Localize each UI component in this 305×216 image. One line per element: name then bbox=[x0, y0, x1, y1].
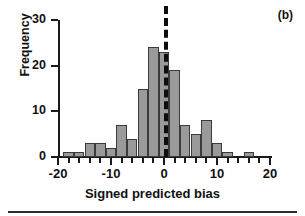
histogram-bar bbox=[191, 134, 202, 157]
figure-bottom-rule bbox=[8, 211, 297, 213]
y-axis-tick bbox=[51, 110, 58, 112]
x-axis-tick-minor bbox=[205, 158, 207, 163]
y-axis-tick-label: 20 bbox=[12, 59, 46, 72]
histogram-bar bbox=[63, 152, 74, 157]
x-axis-tick-label: 20 bbox=[250, 166, 290, 181]
histogram-bar bbox=[244, 152, 255, 157]
histogram-bar bbox=[212, 143, 223, 157]
histogram-bar bbox=[222, 152, 233, 157]
x-axis-title: Signed predicted bias bbox=[0, 186, 305, 201]
x-axis-tick-minor bbox=[195, 158, 197, 163]
histogram-bar bbox=[138, 89, 149, 158]
histogram-figure: (b) Frequency Signed predicted bias 0102… bbox=[0, 0, 305, 216]
histogram-bar bbox=[95, 143, 106, 157]
x-axis-tick-minor bbox=[99, 158, 101, 163]
histogram-bar bbox=[85, 143, 96, 157]
x-axis-tick-minor bbox=[152, 158, 154, 163]
y-axis-tick-label: 0 bbox=[12, 150, 46, 163]
x-axis-tick-minor bbox=[248, 158, 250, 163]
panel-label: (b) bbox=[278, 8, 293, 22]
x-axis-tick-minor bbox=[131, 158, 133, 163]
x-axis-tick-label: -10 bbox=[91, 166, 131, 181]
histogram-bar bbox=[116, 125, 127, 157]
x-axis-tick-minor bbox=[184, 158, 186, 163]
x-axis-tick-major bbox=[163, 158, 165, 165]
x-axis-tick-label: -20 bbox=[38, 166, 78, 181]
x-axis-tick-major bbox=[216, 158, 218, 165]
x-axis-tick-minor bbox=[142, 158, 144, 163]
x-axis-tick-label: 0 bbox=[144, 166, 184, 181]
x-axis-tick-label: 10 bbox=[197, 166, 237, 181]
histogram-bar bbox=[169, 70, 180, 157]
x-axis-tick-minor bbox=[121, 158, 123, 163]
x-axis-tick-major bbox=[110, 158, 112, 165]
plot-area bbox=[58, 20, 270, 157]
y-axis-tick-label: 30 bbox=[12, 13, 46, 26]
y-axis-tick-label: 10 bbox=[12, 104, 46, 117]
histogram-bar bbox=[74, 152, 85, 157]
x-axis-tick-minor bbox=[258, 158, 260, 163]
y-axis-tick bbox=[51, 65, 58, 67]
y-axis-tick bbox=[51, 19, 58, 21]
x-axis-tick-minor bbox=[68, 158, 70, 163]
x-axis-tick-minor bbox=[89, 158, 91, 163]
zero-reference-line-icon bbox=[164, 6, 168, 157]
histogram-bar bbox=[201, 120, 212, 157]
histogram-bar bbox=[127, 139, 138, 157]
x-axis-tick-minor bbox=[227, 158, 229, 163]
histogram-bar bbox=[180, 125, 191, 157]
x-axis-tick-minor bbox=[237, 158, 239, 163]
histogram-bar bbox=[106, 148, 117, 157]
histogram-bar bbox=[148, 47, 159, 157]
x-axis-tick-major bbox=[269, 158, 271, 165]
x-axis-tick-major bbox=[57, 158, 59, 165]
x-axis-tick-minor bbox=[78, 158, 80, 163]
x-axis-tick-minor bbox=[174, 158, 176, 163]
